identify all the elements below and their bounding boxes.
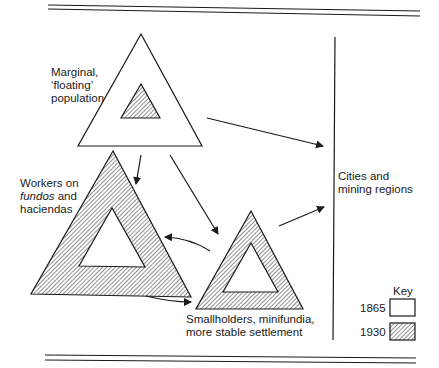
- label-marginal-population: Marginal, ‘floating’ population: [51, 66, 104, 105]
- arrow-marginal-to-workers: [136, 155, 141, 184]
- arrow-smallholders-to-workers: [165, 237, 210, 251]
- top-double-rule: [48, 5, 420, 16]
- arrow-marginal-to-smallholders: [170, 155, 218, 234]
- label-workers-line1: Workers on: [20, 177, 79, 190]
- key-swatches: [390, 299, 415, 340]
- workers-triangle: [31, 151, 191, 297]
- label-smallholders: Smallholders, minifundia, more stable se…: [186, 313, 314, 339]
- key-title: Key: [393, 285, 413, 298]
- label-workers-fundos: fundos: [20, 190, 55, 202]
- label-marginal-line2: ‘floating’: [51, 79, 104, 92]
- label-cities: Cities and mining regions: [338, 170, 413, 196]
- key-swatch-1930: [390, 323, 415, 340]
- bottom-double-rule: [45, 355, 416, 363]
- label-marginal-line1: Marginal,: [51, 66, 104, 79]
- arrow-marginal-to-cities: [207, 118, 323, 146]
- key-swatch-1865: [390, 299, 415, 316]
- key-label-1930: 1930: [360, 326, 386, 339]
- label-marginal-line3: population: [51, 92, 104, 105]
- arrow-smallholders-to-cities: [279, 207, 324, 226]
- label-cities-line1: Cities and: [338, 170, 413, 183]
- label-smallholders-line2: more stable settlement: [186, 326, 314, 339]
- label-smallholders-line1: Smallholders, minifundia,: [186, 313, 314, 326]
- smallholders-triangle: [196, 211, 303, 309]
- cities-divider-line: [333, 37, 335, 340]
- label-workers-and: and: [55, 190, 77, 202]
- label-workers-line3: haciendas: [20, 203, 79, 216]
- key-label-1865: 1865: [360, 302, 386, 315]
- label-workers-line2: fundos and: [20, 190, 79, 203]
- label-workers: Workers on fundos and haciendas: [20, 177, 79, 216]
- label-cities-line2: mining regions: [338, 183, 413, 196]
